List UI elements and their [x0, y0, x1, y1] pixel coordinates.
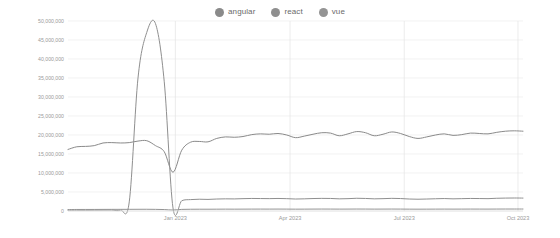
- y-axis-tick-labels: 05,000,00010,000,00015,000,00020,000,000…: [38, 18, 64, 214]
- y-tick-label: 20,000,000: [38, 132, 64, 138]
- series-line-angular: [68, 131, 523, 172]
- y-tick-label: 40,000,000: [38, 56, 64, 62]
- x-axis-tick-labels: Jan 2023Apr 2023Jul 2023Oct 2023: [164, 215, 529, 221]
- y-tick-label: 5,000,000: [41, 189, 64, 195]
- series-line-react: [68, 20, 523, 215]
- y-tick-label: 10,000,000: [38, 170, 64, 176]
- x-tick-label: Oct 2023: [507, 215, 530, 221]
- y-tick-label: 30,000,000: [38, 94, 64, 100]
- y-tick-label: 0: [61, 208, 64, 214]
- x-tick-label: Jul 2023: [394, 215, 415, 221]
- plot-area: 05,000,00010,000,00015,000,00020,000,000…: [0, 0, 560, 238]
- y-tick-label: 50,000,000: [38, 18, 64, 24]
- x-tick-label: Apr 2023: [279, 215, 302, 221]
- y-tick-label: 15,000,000: [38, 151, 64, 157]
- npm-trends-line-chart: angular react vue 05,000,00010,000,00015…: [0, 0, 560, 238]
- chart-svg: 05,000,00010,000,00015,000,00020,000,000…: [0, 0, 560, 238]
- y-tick-label: 35,000,000: [38, 75, 64, 81]
- y-tick-label: 45,000,000: [38, 37, 64, 43]
- series-lines: [68, 20, 523, 215]
- y-tick-label: 25,000,000: [38, 113, 64, 119]
- series-line-vue: [68, 209, 523, 210]
